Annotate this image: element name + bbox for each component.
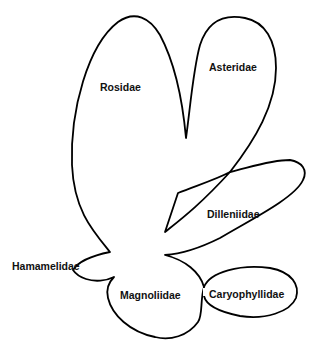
label-rosidae: Rosidae	[100, 82, 141, 93]
label-hamamelidae: Hamamelidae	[12, 261, 80, 272]
label-dilleniidae: Dilleniidae	[207, 209, 260, 220]
label-magnoliidae: Magnoliidae	[120, 290, 181, 301]
label-caryophyllidae: Caryophyllidae	[209, 289, 284, 300]
junction-mask	[203, 288, 206, 296]
label-asteridae: Asteridae	[209, 62, 257, 73]
